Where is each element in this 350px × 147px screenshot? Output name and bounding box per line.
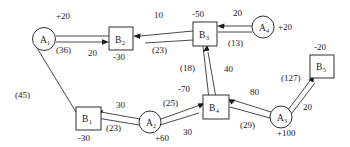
node-a1-subscript: 1: [47, 40, 50, 46]
edge-label-b4-b3-cost: (18): [180, 63, 195, 73]
edge-a3-b4: [228, 99, 271, 118]
edge-label-a3-b5-cost: (127): [281, 73, 301, 83]
node-a2-label: A: [146, 118, 153, 128]
edge-label-a2-b1-flow: 30: [116, 100, 126, 110]
edge-label-a2-b4-cost: (25): [163, 98, 178, 108]
node-a3[interactable]: A 3: [270, 106, 292, 128]
node-b1-label: B: [82, 114, 88, 124]
node-b3[interactable]: B 3: [193, 22, 217, 46]
node-a4[interactable]: A 4: [252, 16, 274, 38]
node-a4-label: A: [259, 23, 266, 33]
supply-a1: +20: [56, 11, 71, 21]
node-b4-subscript: 4: [216, 108, 219, 114]
node-b2[interactable]: B 2: [109, 27, 133, 50]
network-flow-diagram: A 1 +20 B 2 -30 B 3 -50 A 4 +20 B 5: [0, 0, 350, 147]
edge-a1-b1: [37, 48, 76, 112]
edge-label-a1-b2-cost: (36): [56, 45, 71, 55]
node-a2-subscript: 2: [153, 123, 156, 129]
node-a3-label: A: [277, 113, 284, 123]
arrowhead-a4-b3: [217, 23, 225, 28]
node-b1-subscript: 1: [89, 119, 92, 125]
diagram-canvas: A 1 +20 B 2 -30 B 3 -50 A 4 +20 B 5: [0, 0, 350, 147]
supply-a3: +100: [277, 128, 296, 138]
edge-a4-b3: [217, 23, 252, 32]
node-b5-label: B: [316, 62, 322, 72]
node-b3-subscript: 3: [206, 35, 209, 41]
edge-label-a3-b4-cost: (29): [240, 120, 255, 130]
node-b5[interactable]: B 5: [310, 55, 334, 78]
edge-label-a3-b5-flow: 20: [303, 102, 313, 112]
arrowhead-b3-b2: [133, 34, 141, 39]
edge-label-b3-b2-flow: 10: [154, 10, 164, 20]
supply-b5: -20: [314, 42, 326, 52]
node-a4-subscript: 4: [266, 28, 269, 34]
node-b2-subscript: 2: [122, 40, 125, 46]
supply-b3: -50: [192, 9, 204, 19]
edge-label-a3-b4-flow: 80: [250, 87, 260, 97]
edge-label-a1-b1-cost: (45): [15, 90, 30, 100]
edge-label-a4-b3-flow: 20: [233, 8, 243, 18]
edge-label-a2-b1-cost: (23): [106, 123, 121, 133]
node-b4[interactable]: B 4: [203, 95, 229, 119]
arrowhead-a1-b2: [102, 39, 109, 45]
supply-a2: +60: [155, 133, 170, 143]
node-b5-subscript: 5: [323, 67, 326, 73]
edge-label-a4-b3-cost: (13): [228, 38, 243, 48]
supply-b2: -30: [113, 52, 125, 62]
edge-label-a1-b2-flow: 20: [88, 48, 98, 58]
supply-a4: +20: [278, 22, 293, 32]
supply-b1: -30: [78, 133, 90, 143]
node-b4-label: B: [209, 103, 215, 113]
edge-label-a2-b4-flow: 30: [183, 127, 193, 137]
node-a1[interactable]: A 1: [33, 28, 56, 51]
node-b1[interactable]: B 1: [76, 107, 101, 130]
edge-b3-b2: [133, 31, 193, 43]
node-a3-subscript: 3: [284, 118, 287, 124]
edge-b4-b3: [203, 45, 216, 99]
node-b2-label: B: [115, 35, 121, 45]
node-b3-label: B: [199, 30, 205, 40]
edge-label-b4-b3-flow: 40: [224, 64, 234, 74]
node-a1-label: A: [40, 35, 47, 45]
node-a2[interactable]: A 2: [139, 111, 161, 133]
edge-a1-b2: [56, 36, 109, 45]
supply-b4: -70: [178, 84, 190, 94]
edge-label-b3-b2-cost: (23): [152, 45, 167, 55]
